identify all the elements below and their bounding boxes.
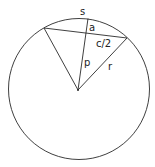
radius-left <box>44 28 78 90</box>
label-apothem-p: p <box>84 57 90 68</box>
label-radius-r: r <box>108 61 113 72</box>
label-arc-s: s <box>80 6 85 17</box>
label-sagitta-a: a <box>89 22 95 33</box>
label-half-chord: c/2 <box>96 38 111 49</box>
circle-segment-diagram: s a c/2 p r <box>0 0 155 167</box>
apothem-sagitta-line <box>78 19 88 91</box>
center-point <box>77 89 79 91</box>
